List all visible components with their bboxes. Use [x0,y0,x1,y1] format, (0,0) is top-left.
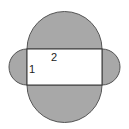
width-label: 2 [51,51,57,63]
height-label: 1 [29,63,35,75]
central-rectangle [27,49,102,85]
semicircles-rectangle-diagram: 2 1 [0,0,129,129]
left-semicircle [9,49,27,85]
top-semicircle [27,12,102,49]
right-semicircle [102,49,120,85]
bottom-semicircle [27,85,102,123]
